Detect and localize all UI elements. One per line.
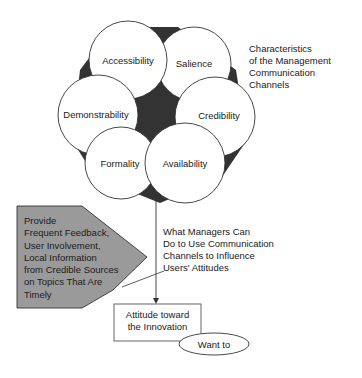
callout-line-6: on Topics That Are bbox=[24, 276, 119, 288]
callout-line-2: Frequent Feedback, bbox=[24, 227, 119, 239]
callout-line-5: from Credible Sources bbox=[24, 264, 119, 276]
managers-label-line-1: What Managers Can bbox=[163, 226, 250, 238]
characteristics-title-line-1: Characteristics bbox=[249, 43, 312, 55]
outcome-box-line-2: the Innovation bbox=[114, 321, 201, 333]
callout-line-3: User Involvement, bbox=[24, 240, 119, 252]
label-salience: Salience bbox=[176, 58, 212, 70]
outcome-box-text: Attitude toward the Innovation bbox=[114, 309, 201, 333]
label-accessibility: Accessibility bbox=[102, 55, 154, 67]
callout-line-1: Provide bbox=[24, 215, 119, 227]
arrow-head-icon bbox=[153, 298, 159, 304]
want-to-label: Want to bbox=[179, 339, 249, 351]
callout-text: Provide Frequent Feedback, User Involvem… bbox=[24, 215, 119, 301]
managers-label-line-2: Do to Use Communication bbox=[163, 238, 274, 250]
characteristics-title-line-2: of the Management bbox=[249, 55, 331, 67]
callout-line-4: Local Information bbox=[24, 252, 119, 264]
characteristics-title-line-4: Channels bbox=[249, 79, 289, 91]
managers-label-line-3: Channels to Influence bbox=[163, 250, 255, 262]
callout-line-7: Timely bbox=[24, 289, 119, 301]
outcome-box-line-1: Attitude toward bbox=[114, 309, 201, 321]
label-demonstrability: Demonstrability bbox=[63, 109, 128, 121]
label-availability: Availability bbox=[163, 158, 208, 170]
managers-label-line-4: Users' Attitudes bbox=[163, 262, 229, 274]
characteristics-title-line-3: Communication bbox=[249, 67, 315, 79]
label-credibility: Credibility bbox=[198, 110, 240, 122]
label-formality: Formality bbox=[100, 158, 139, 170]
